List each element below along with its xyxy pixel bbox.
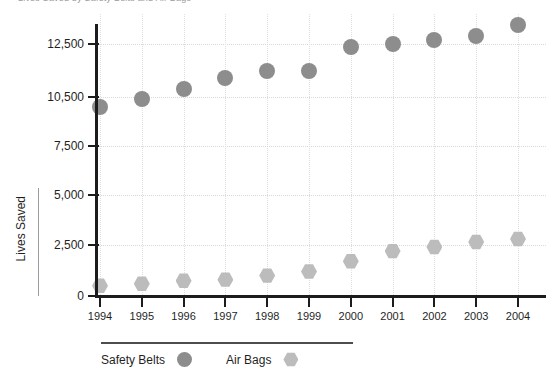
data-point-marker[interactable] [426, 32, 442, 48]
y-axis-title-rule [38, 188, 39, 296]
chart-title-clipped: Lives Saved by Safety Belts and Air Bags [18, 0, 191, 3]
legend-entry[interactable]: Air Bags [226, 352, 298, 367]
y-tick-label: 0 [77, 289, 84, 303]
x-tick-mark [475, 298, 477, 307]
data-point-marker[interactable] [259, 268, 275, 284]
x-tick-label: 1999 [297, 310, 321, 322]
y-tick-label: 2,500 [54, 238, 84, 252]
data-point-marker[interactable] [301, 63, 317, 79]
x-tick-label: 1995 [130, 310, 154, 322]
data-point-marker[interactable] [134, 91, 150, 107]
x-tick-mark [266, 298, 268, 307]
vertical-gridline [434, 14, 435, 297]
data-point-marker[interactable] [301, 264, 317, 280]
vertical-gridline [142, 14, 143, 297]
legend-label: Safety Belts [101, 353, 165, 367]
horizontal-gridline [97, 146, 546, 147]
legend-entry[interactable]: Safety Belts [101, 352, 192, 367]
y-tick-mark [88, 295, 99, 297]
y-tick-mark [88, 194, 99, 196]
x-axis-line [95, 295, 546, 298]
y-tick-mark [88, 96, 99, 98]
plot-area [97, 14, 546, 297]
x-tick-mark [433, 298, 435, 307]
legend-divider [101, 342, 353, 344]
x-tick-mark [350, 298, 352, 307]
y-tick-label: 5,000 [54, 188, 84, 202]
data-point-marker[interactable] [176, 81, 192, 97]
vertical-gridline [267, 14, 268, 297]
vertical-gridline [100, 14, 101, 297]
legend-hexagon-icon [283, 352, 298, 367]
vertical-gridline [309, 14, 310, 297]
data-point-marker[interactable] [468, 234, 484, 250]
x-tick-label: 1994 [88, 310, 112, 322]
x-tick-mark [141, 298, 143, 307]
x-tick-mark [392, 298, 394, 307]
x-tick-label: 1998 [255, 310, 279, 322]
data-point-marker[interactable] [426, 239, 442, 255]
data-point-marker[interactable] [134, 276, 150, 292]
vertical-gridline [518, 14, 519, 297]
x-tick-label: 2003 [464, 310, 488, 322]
y-axis-line [95, 24, 98, 298]
y-tick-label: 10,500 [47, 90, 84, 104]
y-tick-mark [88, 145, 99, 147]
data-point-marker[interactable] [176, 273, 192, 289]
vertical-gridline [476, 14, 477, 297]
y-tick-label: 7,500 [54, 139, 84, 153]
data-point-marker[interactable] [385, 36, 401, 52]
chart-legend: Safety BeltsAir Bags [101, 342, 353, 378]
data-point-marker[interactable] [217, 272, 233, 288]
chart-container: Lives Saved by Safety Belts and Air Bags… [0, 0, 557, 391]
x-tick-mark [517, 298, 519, 307]
x-tick-label: 1996 [171, 310, 195, 322]
y-axis-title: Lives Saved [14, 196, 28, 261]
horizontal-gridline [97, 97, 546, 98]
x-tick-label: 2004 [506, 310, 530, 322]
data-point-marker[interactable] [343, 253, 359, 269]
x-tick-label: 1997 [213, 310, 237, 322]
y-tick-label: 12,500 [47, 37, 84, 51]
x-tick-mark [99, 298, 101, 307]
x-tick-mark [183, 298, 185, 307]
legend-label: Air Bags [226, 353, 271, 367]
data-point-marker[interactable] [510, 17, 526, 33]
vertical-gridline [225, 14, 226, 297]
horizontal-gridline [97, 195, 546, 196]
y-tick-mark [88, 43, 99, 45]
data-point-marker[interactable] [259, 63, 275, 79]
x-tick-mark [308, 298, 310, 307]
x-tick-label: 2002 [422, 310, 446, 322]
y-tick-mark [88, 244, 99, 246]
x-tick-mark [224, 298, 226, 307]
vertical-gridline [184, 14, 185, 297]
data-point-marker[interactable] [468, 28, 484, 44]
data-point-marker[interactable] [217, 70, 233, 86]
horizontal-gridline [97, 44, 546, 45]
x-tick-label: 2000 [339, 310, 363, 322]
x-tick-label: 2001 [380, 310, 404, 322]
legend-circle-icon [177, 352, 192, 367]
data-point-marker[interactable] [343, 39, 359, 55]
